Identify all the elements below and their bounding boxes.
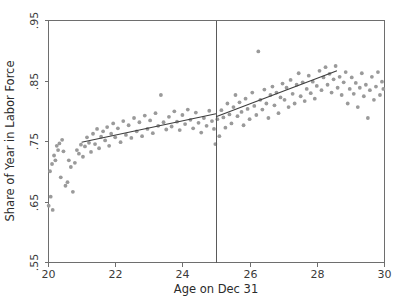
data-point [366, 116, 370, 120]
data-point [293, 102, 297, 106]
data-point [370, 75, 374, 79]
x-tick-label: 30 [378, 268, 392, 281]
data-point [77, 152, 81, 156]
data-point [287, 105, 291, 109]
data-point [69, 165, 73, 169]
data-point [344, 70, 348, 74]
data-point [183, 122, 187, 126]
data-point [248, 117, 252, 121]
data-point [228, 112, 232, 116]
data-point [66, 180, 70, 184]
data-point [105, 125, 109, 129]
data-point [111, 122, 115, 126]
data-point [232, 105, 236, 109]
x-axis-ticks: 202224262830 [42, 263, 392, 282]
data-point [151, 131, 155, 135]
data-point [372, 98, 376, 102]
data-point [368, 88, 372, 92]
data-point [289, 78, 293, 82]
data-point [305, 87, 309, 91]
data-point [362, 94, 366, 98]
data-point [238, 100, 242, 104]
data-point [358, 86, 362, 90]
data-point [340, 93, 344, 97]
data-point [207, 109, 211, 113]
data-point [64, 184, 68, 188]
data-point [51, 208, 55, 212]
y-tick-label: .55 [28, 254, 41, 272]
data-point [143, 114, 147, 118]
data-point [148, 119, 152, 123]
data-point [271, 85, 275, 89]
x-axis-title: Age on Dec 31 [174, 282, 258, 296]
data-point [48, 169, 52, 173]
data-point [236, 114, 240, 118]
data-point [67, 158, 71, 162]
data-point [47, 204, 51, 208]
data-point [262, 88, 266, 92]
data-point [234, 93, 238, 97]
data-point [307, 74, 311, 78]
data-point [230, 122, 234, 126]
data-point [49, 195, 53, 199]
x-tick-label: 26 [244, 268, 258, 281]
data-point [210, 119, 214, 123]
data-point [313, 97, 317, 101]
data-point [181, 113, 185, 117]
left-fit [82, 114, 216, 142]
data-point [260, 108, 264, 112]
data-point [374, 85, 378, 89]
data-point [205, 124, 209, 128]
data-point [226, 102, 230, 106]
data-point [224, 126, 228, 130]
y-tick-label: .65 [28, 194, 41, 212]
data-point [62, 149, 66, 153]
data-point [95, 127, 99, 131]
data-point [250, 91, 254, 95]
data-point [154, 111, 158, 115]
data-point [116, 126, 120, 130]
fitted-lines [82, 71, 337, 142]
y-tick-label: .95 [28, 12, 41, 30]
data-point [244, 97, 248, 101]
data-point [342, 80, 346, 84]
data-point [56, 148, 60, 152]
data-point [350, 76, 354, 80]
data-point [167, 115, 171, 119]
data-point [199, 131, 203, 135]
data-point [281, 82, 285, 86]
data-point [318, 69, 322, 73]
data-point [50, 162, 54, 166]
data-point [256, 50, 260, 54]
data-point [352, 92, 356, 96]
data-point [246, 107, 250, 111]
data-point [252, 104, 256, 108]
data-point [324, 65, 328, 69]
data-point [129, 136, 133, 140]
y-axis-title: Share of Year in Labor Force [3, 60, 17, 221]
data-point [178, 128, 182, 132]
y-axis-ticks: .55.65.75.85.95 [28, 12, 49, 272]
data-point [170, 125, 174, 129]
data-point [378, 93, 382, 97]
data-point [91, 132, 95, 136]
data-point [103, 138, 107, 142]
data-point [315, 84, 319, 88]
data-point [109, 132, 113, 136]
x-tick-label: 20 [42, 268, 56, 281]
data-point [93, 142, 97, 146]
data-point [330, 91, 334, 95]
data-point [212, 127, 216, 131]
data-point [159, 93, 163, 97]
data-point [299, 94, 303, 98]
data-point [89, 150, 93, 154]
data-point [101, 129, 105, 133]
data-point [71, 190, 75, 194]
data-point [265, 102, 269, 106]
data-point [79, 143, 83, 147]
data-point [320, 88, 324, 92]
data-point [162, 120, 166, 124]
data-point [356, 105, 360, 109]
data-point [326, 83, 330, 87]
x-tick-label: 22 [109, 268, 123, 281]
